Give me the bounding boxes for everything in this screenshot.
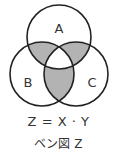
venn-diagram: A B C: [0, 0, 117, 112]
shaded-intersections: [10, 42, 108, 106]
label-a: A: [55, 21, 64, 36]
label-c: C: [87, 75, 96, 90]
label-b: B: [24, 75, 33, 90]
diagram-title: ベン図 Z: [0, 134, 117, 150]
formula-caption: Z = X · Y: [0, 114, 117, 129]
